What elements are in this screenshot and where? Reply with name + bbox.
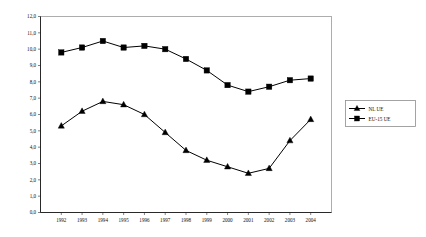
x-tick-label: 1995 — [119, 217, 130, 223]
x-tick-label: 1996 — [139, 217, 150, 223]
legend-label: NL UE — [369, 106, 384, 112]
y-tick-label: 5,0 — [30, 128, 37, 134]
data-point-square — [287, 78, 292, 83]
data-point-square — [308, 76, 313, 81]
y-tick-label: 7,0 — [30, 95, 37, 101]
data-point-square — [79, 45, 84, 50]
x-tick-label: 1993 — [77, 217, 88, 223]
x-tick-label: 2000 — [222, 217, 233, 223]
data-point-square — [163, 46, 168, 51]
y-tick-label: 8,0 — [30, 79, 37, 85]
data-point-square — [225, 82, 230, 87]
data-point-square — [142, 43, 147, 48]
data-point-square — [121, 45, 126, 50]
legend-label: EU-15 UE — [369, 116, 391, 122]
y-tick-label: 4,0 — [30, 144, 37, 150]
y-tick-label: 1,0 — [30, 193, 37, 199]
x-tick-label: 2003 — [285, 217, 296, 223]
y-tick-label: 0,0 — [30, 209, 37, 215]
y-tick-label: 9,0 — [30, 62, 37, 68]
y-tick-label: 6,0 — [30, 111, 37, 117]
line-chart: 0,01,02,03,04,05,06,07,08,09,010,011,012… — [0, 0, 426, 237]
legend-border — [346, 101, 416, 127]
data-point-square — [204, 68, 209, 73]
x-tick-label: 1992 — [56, 217, 67, 223]
x-tick-label: 2001 — [243, 217, 254, 223]
legend-item-2[interactable]: EU-15 UE — [349, 116, 391, 122]
data-point-square — [355, 116, 360, 121]
y-tick-label: 3,0 — [30, 160, 37, 166]
y-tick-label: 12,0 — [27, 13, 36, 19]
x-tick-label: 1999 — [202, 217, 213, 223]
x-tick-label: 1998 — [181, 217, 192, 223]
x-tick-label: 1997 — [160, 217, 171, 223]
data-point-square — [266, 84, 271, 89]
x-tick-label: 1994 — [98, 217, 109, 223]
x-tick-label: 2002 — [264, 217, 275, 223]
y-tick-label: 2,0 — [30, 177, 37, 183]
y-tick-label: 10,0 — [27, 46, 36, 52]
data-point-square — [59, 50, 64, 55]
x-tick-label: 2004 — [306, 217, 317, 223]
data-point-square — [183, 56, 188, 61]
chart-legend: NL UEEU-15 UE — [346, 101, 416, 127]
data-point-square — [100, 38, 105, 43]
y-tick-label: 11,0 — [27, 30, 36, 36]
chart-figure: 0,01,02,03,04,05,06,07,08,09,010,011,012… — [0, 0, 426, 237]
data-point-square — [246, 89, 251, 94]
